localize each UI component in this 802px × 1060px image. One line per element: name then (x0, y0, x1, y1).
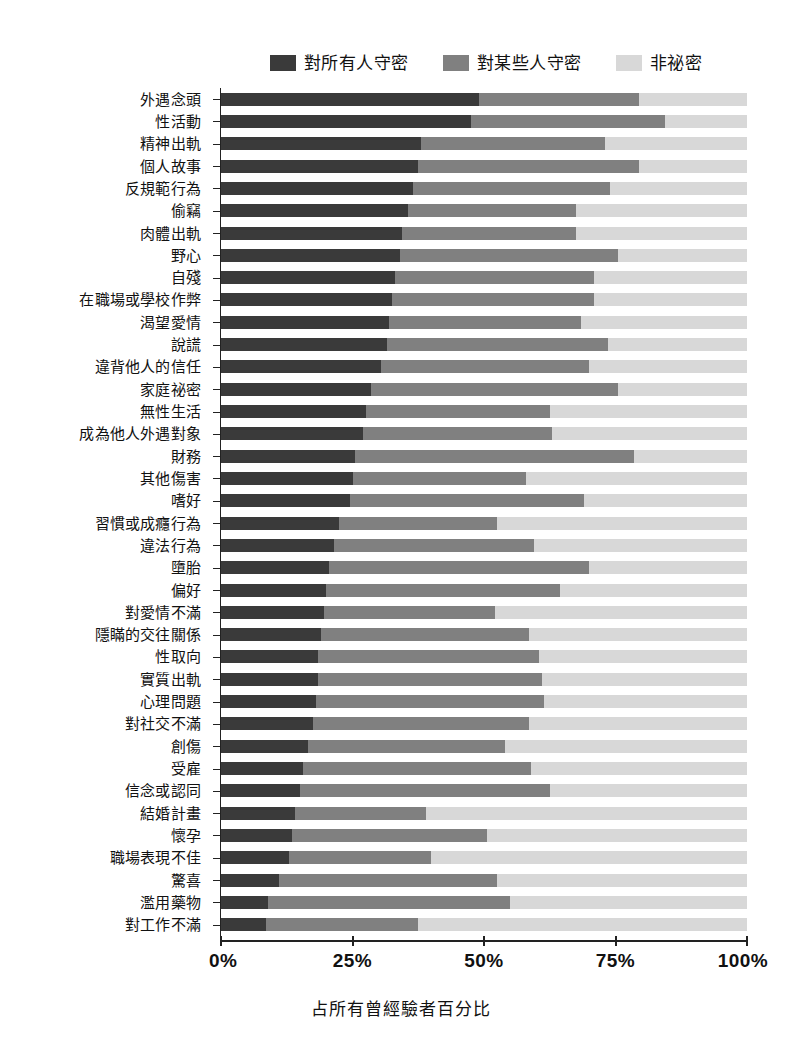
bar-segment-not-secret (529, 717, 747, 730)
y-axis-label-row: 肉體出軌 (0, 222, 207, 244)
bar-segment-not-secret (665, 115, 747, 128)
y-axis-tick (213, 244, 221, 266)
bar-row (221, 824, 747, 846)
y-axis-label-row: 職場表現不佳 (0, 847, 207, 869)
stacked-bar (221, 650, 747, 663)
stacked-bar (221, 271, 747, 284)
bar-segment-secret-from-some (279, 874, 497, 887)
bar-segment-not-secret (529, 628, 747, 641)
bar-segment-secret-from-some (371, 383, 618, 396)
bar-segment-secret-from-all (221, 628, 321, 641)
bar-segment-secret-from-some (318, 650, 539, 663)
bar-segment-not-secret (426, 807, 747, 820)
stacked-bar (221, 517, 747, 530)
y-axis-label-row: 自殘 (0, 267, 207, 289)
bar-segment-secret-from-all (221, 383, 371, 396)
stacked-bar (221, 561, 747, 574)
y-axis-label-row: 性活動 (0, 110, 207, 132)
bar-segment-secret-from-all (221, 338, 387, 351)
bar-row (221, 378, 747, 400)
y-axis-ticks (213, 88, 221, 936)
y-axis-tick (213, 646, 221, 668)
bar-segment-secret-from-all (221, 427, 363, 440)
stacked-bar (221, 383, 747, 396)
bar-row (221, 735, 747, 757)
bar-segment-not-secret (539, 650, 747, 663)
bar-segment-secret-from-all (221, 606, 324, 619)
y-axis-label: 違法行為 (140, 538, 201, 553)
bar-segment-secret-from-some (421, 137, 605, 150)
y-axis-label: 在職場或學校作弊 (79, 292, 201, 307)
bar-row (221, 311, 747, 333)
legend-item-not-secret: 非祕密 (616, 55, 703, 72)
bar-segment-not-secret (589, 360, 747, 373)
y-axis-label: 信念或認同 (125, 783, 201, 798)
bar-segment-secret-from-some (334, 539, 534, 552)
bar-segment-secret-from-all (221, 472, 353, 485)
bar-row (221, 579, 747, 601)
stacked-bar (221, 93, 747, 106)
bar-segment-not-secret (495, 606, 747, 619)
bar-segment-secret-from-some (418, 160, 639, 173)
y-axis-label-row: 其他傷害 (0, 467, 207, 489)
bar-row (221, 780, 747, 802)
bar-row (221, 713, 747, 735)
stacked-bar (221, 249, 747, 262)
y-axis-tick (213, 802, 221, 824)
bar-segment-secret-from-all (221, 450, 355, 463)
bar-row (221, 847, 747, 869)
bar-segment-not-secret (544, 695, 747, 708)
bar-row (221, 668, 747, 690)
bar-row (221, 757, 747, 779)
bar-segment-secret-from-all (221, 874, 279, 887)
legend-swatch-light (616, 55, 642, 71)
y-axis-label: 墮胎 (171, 560, 201, 575)
bar-row (221, 557, 747, 579)
bar-segment-secret-from-all (221, 249, 400, 262)
bar-row (221, 490, 747, 512)
y-axis-tick (213, 601, 221, 623)
bar-segment-secret-from-some (389, 316, 581, 329)
bar-segment-secret-from-all (221, 115, 471, 128)
bar-row (221, 445, 747, 467)
bar-segment-not-secret (581, 316, 747, 329)
bar-segment-secret-from-some (395, 271, 595, 284)
y-axis-tick (213, 110, 221, 132)
y-axis-label: 渴望愛情 (140, 315, 201, 330)
x-axis-tick (483, 936, 485, 946)
bar-segment-secret-from-all (221, 762, 303, 775)
y-axis-label-row: 受雇 (0, 757, 207, 779)
x-axis-tick (352, 936, 354, 946)
bar-row (221, 110, 747, 132)
bar-row (221, 155, 747, 177)
y-axis-tick (213, 735, 221, 757)
y-axis-tick (213, 467, 221, 489)
bar-segment-secret-from-some (413, 182, 610, 195)
bar-segment-secret-from-some (266, 918, 419, 931)
legend-item-secret-from-some: 對某些人守密 (443, 55, 582, 72)
legend-label-secret-from-some: 對某些人守密 (477, 55, 582, 72)
y-axis-label-row: 偷竊 (0, 200, 207, 222)
stacked-bar (221, 896, 747, 909)
bar-segment-secret-from-all (221, 182, 413, 195)
bar-segment-secret-from-some (355, 450, 634, 463)
y-axis-label-row: 信念或認同 (0, 780, 207, 802)
bar-segment-not-secret (610, 182, 747, 195)
bar-segment-secret-from-all (221, 784, 300, 797)
stacked-bar (221, 405, 747, 418)
y-axis-label-row: 外遇念頭 (0, 88, 207, 110)
y-axis-tick (213, 133, 221, 155)
y-axis-label-row: 野心 (0, 244, 207, 266)
y-axis-label-row: 濫用藥物 (0, 891, 207, 913)
x-axis-ticks (221, 936, 747, 946)
bar-segment-not-secret (634, 450, 747, 463)
bar-segment-secret-from-all (221, 271, 395, 284)
stacked-bar (221, 829, 747, 842)
y-axis-tick (213, 445, 221, 467)
bar-segment-secret-from-all (221, 584, 326, 597)
bar-row (221, 423, 747, 445)
y-axis-label: 外遇念頭 (140, 92, 201, 107)
y-axis-tick (213, 914, 221, 936)
stacked-bar (221, 137, 747, 150)
bar-segment-not-secret (418, 918, 747, 931)
